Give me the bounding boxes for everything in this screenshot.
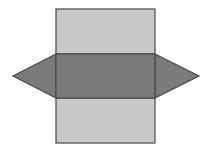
right-triangle-face xyxy=(155,54,199,98)
prism-net-svg xyxy=(0,0,208,148)
prism-net-diagram xyxy=(0,0,208,148)
bottom-rectangle-face xyxy=(56,98,155,143)
left-triangle-face xyxy=(13,54,56,98)
middle-rectangle-face xyxy=(56,54,155,98)
top-rectangle-face xyxy=(56,9,155,54)
